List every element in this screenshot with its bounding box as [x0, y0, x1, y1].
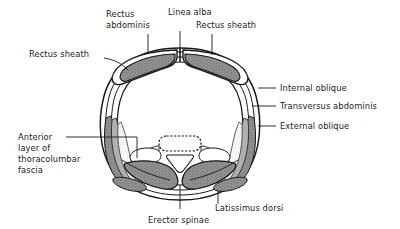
label-thoracolumbar-fascia-line2: layer of	[18, 143, 51, 153]
label-latissimus-dorsi: Latissimus dorsi	[215, 203, 284, 213]
vertebral-body	[159, 136, 201, 151]
label-thoracolumbar-fascia-line3: thoracolumbar	[18, 154, 81, 164]
label-rectus-sheath-right: Rectus sheath	[196, 20, 256, 30]
label-linea-alba: Linea alba	[168, 7, 212, 17]
label-rectus-abdominis-line2: abdominis	[106, 20, 150, 30]
label-internal-oblique: Internal oblique	[280, 83, 347, 93]
label-erector-spinae: Erector spinae	[148, 215, 209, 225]
label-thoracolumbar-fascia-line4: fascia	[18, 165, 43, 175]
label-external-oblique: External oblique	[280, 121, 349, 131]
label-rectus-abdominis-line1: Rectus	[106, 9, 135, 19]
abdominal-cross-section-diagram: Rectus abdominis Linea alba Rectus sheat…	[0, 0, 400, 229]
label-transversus-abdominis: Transversus abdominis	[279, 101, 377, 111]
label-rectus-sheath-left: Rectus sheath	[29, 49, 89, 59]
label-thoracolumbar-fascia-line1: Anterior	[18, 132, 53, 142]
